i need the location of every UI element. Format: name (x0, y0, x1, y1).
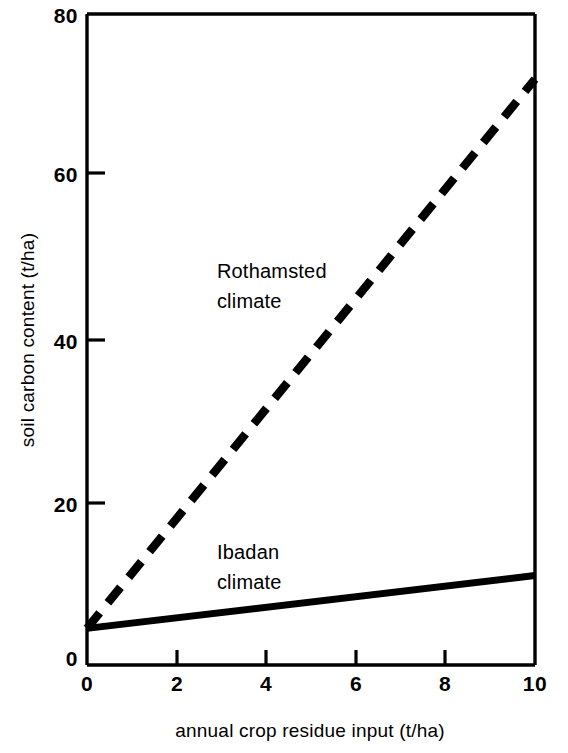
x-tick-label-0: 0 (81, 672, 93, 695)
annotation-ibadan-line1: Ibadan (217, 541, 279, 563)
x-tick-label-10: 10 (523, 672, 547, 695)
y-tick-label-60: 60 (54, 163, 78, 186)
x-tick-label-6: 6 (350, 672, 362, 695)
x-tick-label-8: 8 (439, 672, 451, 695)
annotation-rothamsted-line1: Rothamsted (217, 260, 327, 282)
annotation-ibadan-line2: climate (217, 571, 282, 593)
x-tick-label-2: 2 (171, 672, 183, 695)
x-axis-title: annual crop residue input (t/ha) (175, 720, 444, 741)
y-tick-label-80: 80 (54, 4, 78, 27)
y-tick-label-0: 0 (66, 647, 78, 670)
chart-figure: 80 60 40 20 0 0 2 4 6 8 10 annual crop r… (0, 0, 568, 753)
chart-background (0, 0, 568, 753)
annotation-rothamsted-line2: climate (217, 290, 282, 312)
y-axis-title: soil carbon content (t/ha) (17, 233, 38, 447)
soil-carbon-line-chart: 80 60 40 20 0 0 2 4 6 8 10 annual crop r… (0, 0, 568, 753)
y-tick-label-20: 20 (54, 493, 78, 516)
y-tick-label-40: 40 (54, 330, 78, 353)
x-tick-label-4: 4 (260, 672, 272, 695)
